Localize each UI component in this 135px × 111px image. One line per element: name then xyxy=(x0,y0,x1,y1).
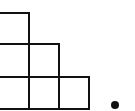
staircase-diagram xyxy=(0,0,135,111)
diagram-cell xyxy=(28,43,60,78)
diagram-cell xyxy=(58,76,90,110)
diagram-cell xyxy=(28,76,60,110)
dot-marker xyxy=(111,101,119,109)
diagram-cell xyxy=(0,43,30,78)
diagram-cell xyxy=(0,76,30,110)
diagram-cell xyxy=(0,12,30,45)
